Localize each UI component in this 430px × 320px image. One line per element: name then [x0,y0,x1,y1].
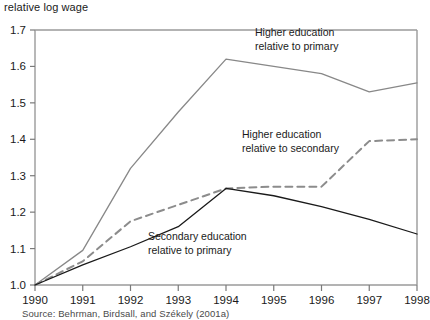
x-axis-tick-labels: 199019911992199319941995199619971998 [22,294,430,306]
y-tick-label: 1.4 [10,133,27,145]
series-annotation-label: relative to secondary [242,142,340,154]
y-tick-label: 1.7 [10,24,26,36]
y-tick-label: 1.1 [10,243,26,255]
x-tick-label: 1997 [356,294,382,306]
x-tick-label: 1994 [213,294,239,306]
series-annotation-label: Higher education [255,26,335,38]
x-tick-label: 1993 [165,294,191,306]
line-chart-canvas: 199019911992199319941995199619971998 1.0… [0,0,430,320]
y-tick-label: 1.6 [10,60,26,72]
x-tick-label: 1998 [404,294,430,306]
series-line [35,139,417,285]
x-tick-label: 1990 [22,294,48,306]
series-annotation-label: Secondary education [148,230,247,242]
series-annotations: Higher educationrelative to primaryHighe… [148,26,340,256]
x-tick-label: 1992 [118,294,144,306]
y-axis-tick-labels: 1.01.11.21.31.41.51.61.7 [10,24,27,291]
y-tick-label: 1.5 [10,97,26,109]
x-tick-label: 1991 [70,294,96,306]
series-annotation-label: relative to primary [255,40,339,52]
y-tick-label: 1.2 [10,206,26,218]
series-annotation-label: relative to primary [148,244,232,256]
series-annotation-label: Higher education [242,128,322,140]
y-tick-label: 1.0 [10,279,26,291]
x-tick-label: 1995 [261,294,287,306]
x-tick-label: 1996 [309,294,335,306]
chart-figure: relative log wage 1990199119921993199419… [0,0,430,320]
y-tick-label: 1.3 [10,170,26,182]
source-note: Source: Behrman, Birdsall, and Székely (… [22,308,229,319]
